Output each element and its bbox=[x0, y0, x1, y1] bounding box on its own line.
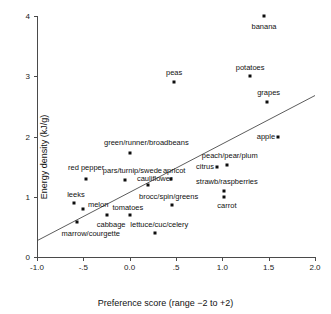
x-tick-label: 2.0 bbox=[309, 263, 320, 272]
data-point-label: brocc/spin/greens bbox=[139, 193, 198, 201]
data-point bbox=[265, 100, 268, 103]
x-tick bbox=[83, 257, 84, 261]
data-point-label: lettuce/cuc/celery bbox=[130, 221, 188, 229]
data-point-label: peach/pear/plum bbox=[202, 152, 258, 160]
trend-line-layer bbox=[0, 0, 331, 314]
data-point bbox=[249, 75, 252, 78]
x-tick bbox=[315, 257, 316, 261]
y-tick-label: 0 bbox=[0, 253, 30, 262]
data-point-label: melon bbox=[88, 201, 108, 209]
data-point bbox=[147, 183, 150, 186]
data-point-label: banana bbox=[252, 23, 277, 31]
data-point bbox=[153, 231, 156, 234]
data-point bbox=[276, 135, 279, 138]
data-point-label: cabbage bbox=[97, 221, 126, 229]
scatter-chart: 01234 -1.0-.50.0.51.01.52.0 bananapeaspo… bbox=[0, 0, 331, 314]
data-point-label: peas bbox=[166, 69, 182, 77]
y-tick-label: 3 bbox=[0, 72, 30, 81]
data-point-label: cauliflower bbox=[137, 175, 172, 183]
data-point-label: strawb/raspberries bbox=[196, 178, 258, 186]
y-tick bbox=[34, 197, 38, 198]
data-point bbox=[128, 214, 131, 217]
data-point-label: green/runner/broadbeans bbox=[104, 139, 189, 147]
data-point bbox=[225, 164, 228, 167]
x-tick-label: -1.0 bbox=[30, 263, 44, 272]
x-tick bbox=[269, 257, 270, 261]
data-point-label: carrot bbox=[217, 202, 236, 210]
x-tick bbox=[37, 257, 38, 261]
data-point-label: grapes bbox=[257, 89, 280, 97]
x-tick-label: -.5 bbox=[79, 263, 88, 272]
data-point-label: marrow/courgette bbox=[62, 230, 120, 238]
data-point-label: red pepper bbox=[68, 164, 104, 172]
data-point bbox=[223, 195, 226, 198]
data-point bbox=[263, 15, 266, 18]
data-point bbox=[171, 203, 174, 206]
y-axis-title: Energy density (kJ/g) bbox=[39, 115, 49, 200]
data-point-label: tomatoes bbox=[112, 204, 143, 212]
y-tick bbox=[34, 76, 38, 77]
x-tick-label: 1.5 bbox=[263, 263, 274, 272]
data-point-label: leeks bbox=[67, 191, 85, 199]
data-point bbox=[105, 214, 108, 217]
data-point bbox=[173, 81, 176, 84]
data-point bbox=[85, 177, 88, 180]
data-point bbox=[124, 179, 127, 182]
data-point bbox=[128, 151, 131, 154]
x-tick-label: 0.0 bbox=[124, 263, 135, 272]
data-point bbox=[73, 201, 76, 204]
y-tick bbox=[34, 16, 38, 17]
x-tick-label: .5 bbox=[173, 263, 180, 272]
data-point-label: potatoes bbox=[236, 64, 265, 72]
y-tick bbox=[34, 137, 38, 138]
x-tick bbox=[222, 257, 223, 261]
x-tick bbox=[176, 257, 177, 261]
data-point bbox=[223, 189, 226, 192]
data-point bbox=[215, 166, 218, 169]
data-point bbox=[82, 207, 85, 210]
data-point bbox=[75, 221, 78, 224]
x-axis-title: Preference score (range −2 to +2) bbox=[98, 298, 234, 308]
x-tick bbox=[130, 257, 131, 261]
y-tick-label: 2 bbox=[0, 132, 30, 141]
y-tick-label: 1 bbox=[0, 192, 30, 201]
y-tick-label: 4 bbox=[0, 12, 30, 21]
data-point-label: citrus bbox=[196, 163, 214, 171]
data-point-label: apple bbox=[257, 133, 275, 141]
x-tick-label: 1.0 bbox=[217, 263, 228, 272]
